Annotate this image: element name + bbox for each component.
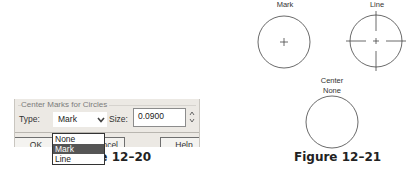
type-dropdown-list[interactable]: None Mark Line: [52, 133, 105, 165]
dropdown-option-none[interactable]: None: [53, 134, 104, 144]
dropdown-option-line[interactable]: Line: [53, 154, 104, 164]
none-circle-drawing: [306, 96, 358, 148]
dropdown-option-mark[interactable]: Mark: [53, 144, 104, 154]
figure-12-21-caption: Figure 12–21: [294, 150, 381, 164]
line-circle-drawing: [346, 11, 406, 71]
mark-circle-drawing: [258, 16, 310, 68]
